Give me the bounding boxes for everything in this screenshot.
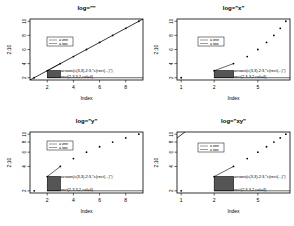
data-point [86,151,88,153]
data-point [257,151,259,153]
annotation-text: rect(2,3,3,2,col=4) [61,74,94,79]
chart-panel-2: log="x"125246810Index2:10arrows(c(3,3),2… [153,5,290,101]
y-tick-label: 2 [22,76,27,79]
y-tick-label: 2 [22,189,27,192]
data-point [46,70,48,72]
x-axis-label: Index [80,208,93,214]
data-point [180,77,182,79]
filled-rect [47,71,60,78]
y-tick-label: 6 [22,48,27,51]
y-tick-label: 8 [22,34,27,37]
y-tick-label: 8 [169,34,174,37]
chart-panel-1: log=""2468246810Index2:10arrows(c(3,3),2… [6,5,143,101]
chart-title: log="" [77,5,95,11]
legend-label: a two [210,148,219,152]
data-point [112,34,114,36]
data-point [213,70,215,72]
legend-label: a two [59,146,68,150]
data-point [279,27,281,29]
filled-rect [214,71,233,78]
data-point [99,146,101,148]
data-point [125,137,127,139]
y-tick-label: 4 [22,165,27,168]
y-tick-label: 10 [169,131,174,137]
y-axis-label: 2:10 [6,44,12,54]
plot-canvas: log=""2468246810Index2:10arrows(c(3,3),2… [0,0,294,226]
y-tick-label: 10 [22,18,27,24]
data-point [213,176,215,178]
data-point [73,56,75,58]
data-point [285,20,287,22]
data-point [59,63,61,65]
data-point [112,141,114,143]
data-point [285,133,287,135]
x-tick-label: 1 [180,197,183,203]
y-tick-label: 4 [169,62,174,65]
x-tick-label: 5 [256,197,259,203]
y-tick-label: 8 [169,140,174,143]
diagonal-line [177,132,185,138]
plot-area [177,132,290,192]
x-tick-label: 2 [213,197,216,203]
x-axis-label: Index [80,95,93,101]
x-tick-label: 8 [124,197,127,203]
x-tick-label: 6 [98,84,101,90]
data-point [266,42,268,44]
annotation-text: rect(2,3,3,2,col=4) [234,187,267,192]
chart-panel-4: log="xy"125246810Index2:10arrows(c(3,3),… [153,118,290,214]
data-point [33,77,35,79]
chart-title: log="y" [76,118,98,124]
annotation-text: arrows(c(3,3),2:3,*c(rect(...)") [61,68,113,73]
y-tick-label: 4 [22,62,27,65]
data-point [138,20,140,22]
x-tick-label: 2 [46,197,49,203]
x-tick-label: 2 [46,84,49,90]
data-point [279,137,281,139]
chart-panel-3: log="y"2468246810Index2:10arrows(c(3,3),… [6,118,143,214]
x-tick-label: 1 [180,84,183,90]
data-point [233,166,235,168]
y-axis-label: 2:10 [153,157,159,167]
chart-grid: log=""2468246810Index2:10arrows(c(3,3),2… [0,0,294,226]
data-point [233,63,235,65]
y-tick-label: 10 [169,18,174,24]
chart-title: log="x" [223,5,245,11]
segment-line [214,166,233,176]
y-tick-label: 8 [22,140,27,143]
legend-label: a two [59,42,68,46]
x-tick-label: 4 [72,197,75,203]
x-axis-label: Index [227,208,240,214]
x-tick-label: 6 [98,197,101,203]
data-point [33,190,35,192]
annotation-text: arrows(c(3,3),2:3,*c(rect(...)") [234,174,286,179]
data-point [257,49,259,51]
y-tick-label: 2 [169,189,174,192]
data-point [59,166,61,168]
data-point [99,42,101,44]
y-tick-label: 4 [169,165,174,168]
filled-rect [214,177,233,191]
annotation-text: rect(2,3,3,2,col=4) [61,187,94,192]
y-tick-label: 6 [169,150,174,153]
y-axis-label: 2:10 [6,157,12,167]
data-point [273,141,275,143]
data-point [46,176,48,178]
x-axis-label: Index [227,95,240,101]
segment-line [214,64,233,71]
x-tick-label: 8 [124,84,127,90]
data-point [273,34,275,36]
data-point [138,133,140,135]
annotation-text: rect(2,3,3,2,col=4) [234,74,267,79]
data-point [246,56,248,58]
x-tick-label: 2 [213,84,216,90]
y-tick-label: 2 [169,76,174,79]
segment-line [47,166,60,176]
data-point [73,158,75,160]
data-point [86,49,88,51]
data-point [266,146,268,148]
y-tick-label: 10 [22,131,27,137]
y-tick-label: 6 [169,48,174,51]
annotation-text: arrows(c(3,3),2:3,*c(rect(...)") [61,174,113,179]
chart-title: log="xy" [221,118,246,124]
data-point [125,27,127,29]
